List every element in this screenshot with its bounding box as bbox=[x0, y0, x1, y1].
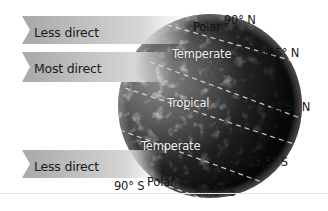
banner-label: Less direct bbox=[22, 159, 99, 174]
divider-line bbox=[0, 193, 328, 194]
latitude-66-5n: 66.5° N bbox=[257, 46, 299, 60]
zone-temperate-north: Temperate bbox=[172, 47, 231, 61]
latitude-90s: 90° S bbox=[114, 179, 144, 193]
zone-polar-north: Polar bbox=[193, 20, 221, 34]
banner-most-direct: Most direct bbox=[22, 52, 172, 84]
latitude-23-5s: 23.5° S bbox=[247, 155, 288, 169]
zone-polar-south: Polar bbox=[147, 175, 175, 189]
zone-tropical: Tropical bbox=[167, 96, 209, 110]
banner-label: Less direct bbox=[22, 25, 99, 40]
banner-less-direct-bottom: Less direct bbox=[22, 150, 162, 182]
latitude-0: 0° bbox=[259, 134, 272, 148]
banner-less-direct-top: Less direct bbox=[22, 16, 192, 48]
banner-label: Most direct bbox=[22, 61, 101, 76]
sunlight-latitude-diagram: Less direct Most direct Less direct Pola… bbox=[0, 0, 328, 211]
latitude-90n: 90° N bbox=[224, 13, 256, 27]
latitude-23-5n: 23.5° N bbox=[268, 100, 310, 114]
latitude-66-5s: 66.5° S bbox=[195, 185, 236, 199]
zone-temperate-south: Temperate bbox=[141, 139, 200, 153]
